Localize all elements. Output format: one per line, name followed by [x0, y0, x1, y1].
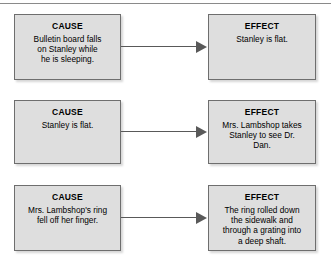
effect-box: EFFECT Stanley is flat. — [208, 14, 316, 80]
effect-title: EFFECT — [209, 192, 315, 202]
effect-title: EFFECT — [209, 21, 315, 31]
cause-text: Mrs. Lambshop's ring fell off her finger… — [15, 205, 120, 225]
arrow-right-icon — [121, 126, 207, 138]
cause-title: CAUSE — [15, 21, 120, 31]
effect-text: The ring rolled down the sidewalk and th… — [209, 205, 315, 246]
top-divider-rule — [0, 3, 331, 4]
arrow-shaft — [121, 131, 197, 132]
effect-title: EFFECT — [209, 107, 315, 117]
cause-effect-row: CAUSE Bulletin board falls on Stanley wh… — [0, 14, 331, 80]
cause-effect-row: CAUSE Mrs. Lambshop's ring fell off her … — [0, 185, 331, 251]
arrow-right-icon — [121, 212, 207, 224]
cause-effect-diagram: CAUSE Bulletin board falls on Stanley wh… — [0, 0, 331, 264]
effect-box: EFFECT The ring rolled down the sidewalk… — [208, 185, 316, 251]
cause-text: Stanley is flat. — [15, 120, 120, 130]
cause-title: CAUSE — [15, 107, 120, 117]
arrow-shaft — [121, 217, 197, 218]
cause-box: CAUSE Bulletin board falls on Stanley wh… — [14, 14, 121, 80]
cause-box: CAUSE Mrs. Lambshop's ring fell off her … — [14, 185, 121, 251]
cause-text: Bulletin board falls on Stanley while he… — [15, 34, 120, 65]
arrow-shaft — [121, 46, 197, 47]
arrow-right-icon — [121, 41, 207, 53]
effect-text: Mrs. Lambshop takes Stanley to see Dr. D… — [209, 120, 315, 151]
arrow-head — [196, 41, 207, 53]
cause-title: CAUSE — [15, 192, 120, 202]
cause-effect-row: CAUSE Stanley is flat. EFFECT Mrs. Lambs… — [0, 100, 331, 164]
arrow-head — [196, 126, 207, 138]
cause-box: CAUSE Stanley is flat. — [14, 100, 121, 164]
arrow-head — [196, 212, 207, 224]
effect-text: Stanley is flat. — [209, 34, 315, 44]
effect-box: EFFECT Mrs. Lambshop takes Stanley to se… — [208, 100, 316, 164]
